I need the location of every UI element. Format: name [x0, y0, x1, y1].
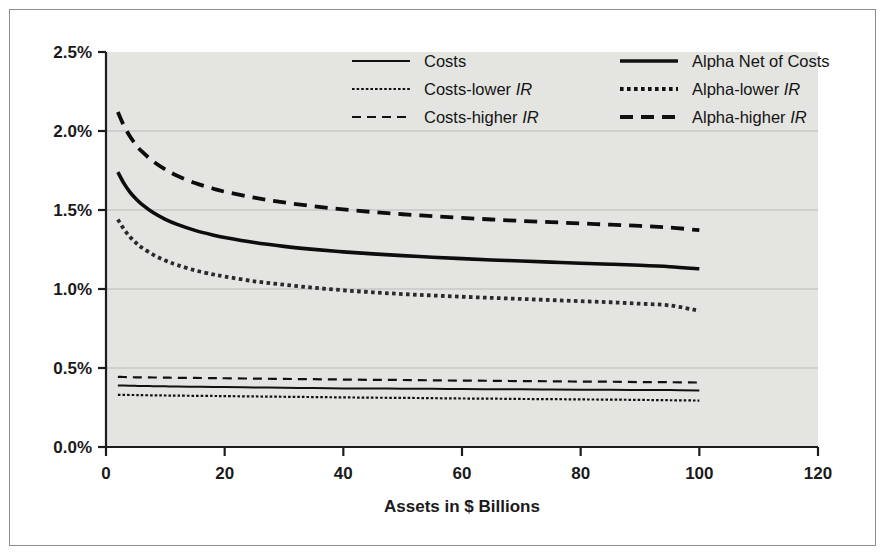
- y-axis-tick-label: 1.5%: [53, 201, 92, 220]
- x-axis-tick-label: 120: [804, 464, 832, 483]
- y-axis-tick-label: 2.5%: [53, 43, 92, 62]
- legend-label: Costs: [424, 52, 466, 70]
- legend-label: Costs-higher IR: [424, 108, 539, 126]
- x-axis-tick-label: 60: [453, 464, 472, 483]
- y-axis-tick-label: 2.0%: [53, 122, 92, 141]
- legend-label: Alpha-higher IR: [692, 108, 807, 126]
- x-axis-tick-label: 40: [334, 464, 353, 483]
- x-axis-tick-label: 80: [571, 464, 590, 483]
- x-axis-tick-label: 100: [685, 464, 713, 483]
- chart-figure: 0.0%0.5%1.0%1.5%2.0%2.5% 020406080100120…: [0, 0, 885, 555]
- legend-label: Costs-lower IR: [424, 80, 532, 98]
- y-axis-tick-label: 1.0%: [53, 280, 92, 299]
- y-axis-ticks-group: 0.0%0.5%1.0%1.5%2.0%2.5%: [53, 43, 106, 457]
- x-axis-title: Assets in $ Billions: [384, 497, 540, 516]
- legend-label: Alpha-lower IR: [692, 80, 800, 98]
- assets-vs-alpha-costs-chart: 0.0%0.5%1.0%1.5%2.0%2.5% 020406080100120…: [0, 0, 885, 555]
- y-axis-tick-label: 0.0%: [53, 438, 92, 457]
- legend-label: Alpha Net of Costs: [692, 52, 830, 70]
- x-axis-ticks-group: 020406080100120: [101, 447, 832, 483]
- x-axis-tick-label: 0: [101, 464, 110, 483]
- x-axis-tick-label: 20: [215, 464, 234, 483]
- y-axis-tick-label: 0.5%: [53, 359, 92, 378]
